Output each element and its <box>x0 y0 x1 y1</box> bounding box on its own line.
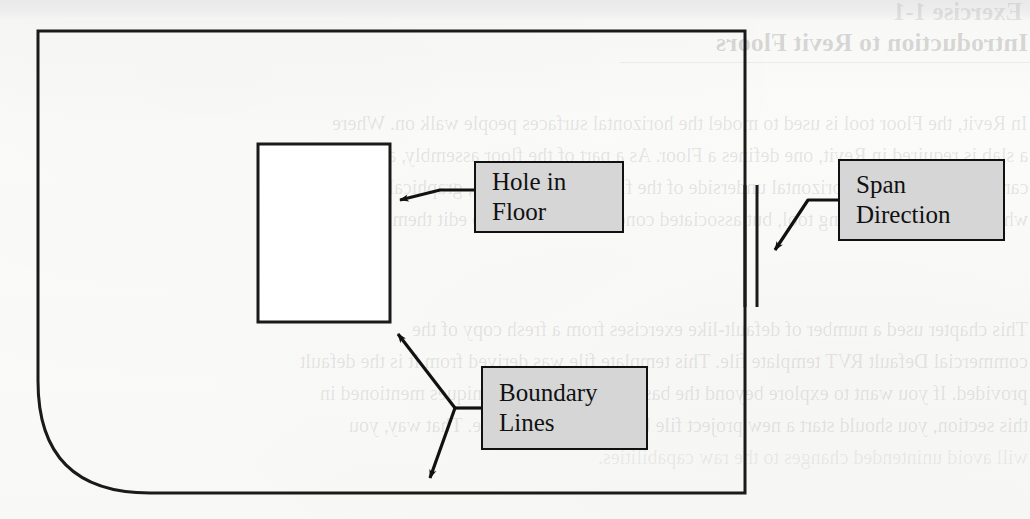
callout-hole-line-1: Hole in <box>492 167 622 198</box>
leader-boundary-to-hole <box>398 334 455 408</box>
callout-boundary-line-2: Lines <box>499 408 646 439</box>
hole-in-floor-opening <box>258 144 390 322</box>
scanned-figure-page: Exercise 1-1 Introduction to Revit Floor… <box>0 0 1030 519</box>
callout-boundary-lines[interactable]: Boundary Lines <box>481 366 648 450</box>
callout-span-line-2: Direction <box>856 200 1003 231</box>
callout-hole-line-2: Floor <box>492 197 622 228</box>
leader-hole-in-floor <box>400 190 474 200</box>
leader-boundary-to-floor-edge <box>430 408 455 478</box>
leader-span-direction <box>775 200 838 250</box>
callout-span-line-1: Span <box>856 170 1003 201</box>
callout-boundary-line-1: Boundary <box>499 378 646 409</box>
callout-span-direction[interactable]: Span Direction <box>838 159 1005 241</box>
callout-hole-in-floor[interactable]: Hole in Floor <box>474 161 624 233</box>
